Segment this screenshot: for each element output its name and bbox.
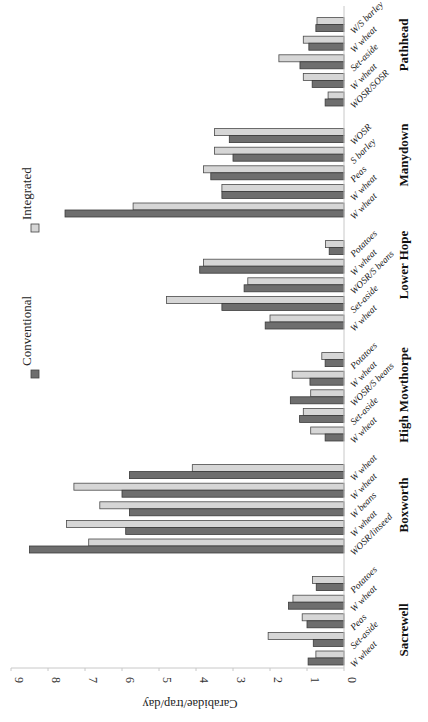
carabidae-bar-chart: 0123456789 W wheatSet-asidePeasW wheatPo… bbox=[0, 0, 428, 722]
bar-integrated bbox=[311, 390, 344, 397]
tick-label: 2 bbox=[271, 677, 285, 683]
bar-conventional bbox=[329, 248, 344, 255]
bar-conventional bbox=[290, 397, 344, 404]
site-label: High Mowthorpe bbox=[396, 347, 411, 443]
tick-label: 1 bbox=[308, 677, 322, 683]
tick-label: 5 bbox=[160, 677, 174, 683]
bar-integrated bbox=[89, 539, 344, 546]
bar-conventional bbox=[200, 266, 344, 273]
bar-conventional bbox=[308, 658, 344, 665]
tick-label: 6 bbox=[123, 677, 137, 683]
legend: ConventionalIntegrated bbox=[19, 167, 39, 378]
bar-integrated bbox=[270, 315, 344, 322]
tick-label: 8 bbox=[49, 677, 63, 683]
bar-conventional bbox=[129, 509, 344, 516]
bar-conventional bbox=[316, 25, 344, 32]
bar-conventional bbox=[65, 210, 344, 217]
tick-label: 7 bbox=[86, 677, 100, 683]
tick-label: 9 bbox=[12, 677, 26, 683]
bar-conventional bbox=[229, 136, 344, 143]
bar-integrated bbox=[203, 259, 344, 266]
bar-conventional bbox=[222, 191, 344, 198]
legend-swatch-integrated bbox=[31, 224, 39, 232]
bar-integrated bbox=[313, 577, 344, 584]
site-label: Manydown bbox=[396, 123, 411, 187]
bar-conventional bbox=[265, 322, 344, 329]
bar-conventional bbox=[309, 43, 344, 50]
bar-integrated bbox=[67, 520, 345, 527]
bar-integrated bbox=[326, 241, 345, 248]
bar-conventional bbox=[211, 173, 344, 180]
bar-conventional bbox=[300, 415, 344, 422]
bar-conventional bbox=[244, 285, 344, 292]
bar-conventional bbox=[126, 527, 344, 534]
bars-layer bbox=[30, 18, 345, 665]
bar-integrated bbox=[222, 184, 344, 191]
bar-integrated bbox=[311, 427, 344, 434]
axis-title: Carabidae/trap/day bbox=[142, 697, 238, 711]
bar-conventional bbox=[325, 360, 344, 367]
bar-conventional bbox=[310, 378, 344, 385]
site-label: Sacrewell bbox=[396, 603, 411, 657]
bar-conventional bbox=[289, 602, 345, 609]
legend-label-conventional: Conventional bbox=[19, 296, 34, 366]
bar-conventional bbox=[122, 490, 344, 497]
bar-integrated bbox=[166, 296, 344, 303]
bar-integrated bbox=[279, 55, 344, 62]
bar-conventional bbox=[325, 99, 344, 106]
tick-label: 3 bbox=[234, 677, 248, 683]
bar-integrated bbox=[317, 18, 344, 25]
tick-label: 4 bbox=[197, 677, 211, 683]
bar-integrated bbox=[215, 129, 345, 136]
bar-integrated bbox=[100, 502, 344, 509]
bar-integrated bbox=[303, 408, 344, 415]
legend-swatch-conventional bbox=[31, 370, 39, 378]
bar-integrated bbox=[303, 36, 344, 43]
bar-integrated bbox=[192, 465, 344, 472]
legend-label-integrated: Integrated bbox=[19, 167, 34, 220]
site-label: Pathhead bbox=[396, 18, 411, 72]
value-axis: 0123456789 bbox=[11, 6, 359, 683]
bar-conventional bbox=[313, 639, 344, 646]
site-labels: SacrewellBoxworthHigh MowthorpeLower Hop… bbox=[396, 18, 411, 657]
bar-conventional bbox=[222, 303, 344, 310]
bar-integrated bbox=[316, 651, 344, 658]
bar-integrated bbox=[133, 203, 344, 210]
bar-integrated bbox=[302, 614, 344, 621]
category-labels: W wheatSet-asidePeasW wheatPotatoesWOSR/… bbox=[348, 0, 396, 669]
bar-integrated bbox=[203, 166, 344, 173]
bar-integrated bbox=[292, 371, 344, 378]
site-label: Lower Hope bbox=[396, 230, 411, 299]
bar-conventional bbox=[316, 584, 344, 591]
tick-label: 0 bbox=[345, 677, 359, 683]
bar-conventional bbox=[325, 434, 344, 441]
bar-integrated bbox=[328, 92, 344, 99]
bar-integrated bbox=[74, 483, 344, 490]
bar-integrated bbox=[322, 353, 344, 360]
bar-conventional bbox=[300, 62, 344, 69]
bar-conventional bbox=[30, 546, 345, 553]
bar-integrated bbox=[303, 73, 344, 80]
bar-conventional bbox=[233, 154, 344, 161]
bar-integrated bbox=[268, 632, 344, 639]
bar-conventional bbox=[307, 621, 344, 628]
site-label: Boxworth bbox=[396, 477, 411, 533]
bar-conventional bbox=[129, 472, 344, 479]
bar-conventional bbox=[312, 80, 344, 87]
bar-integrated bbox=[215, 147, 345, 154]
bar-integrated bbox=[293, 595, 344, 602]
bar-integrated bbox=[248, 278, 344, 285]
